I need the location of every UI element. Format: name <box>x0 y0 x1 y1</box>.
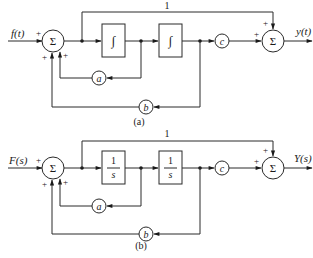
sign-sum1-feedback-b: + <box>42 52 47 62</box>
summing-junction-1: Σ <box>42 30 64 52</box>
output-label-y-t: y(t) <box>295 25 312 38</box>
summing-junction-2: Σ <box>262 30 284 52</box>
gain-a: a <box>92 199 106 213</box>
svg-text:1: 1 <box>111 155 116 166</box>
svg-text:s: s <box>112 169 116 180</box>
summing-junction-1: Σ <box>42 157 64 179</box>
caption-b: (b) <box>135 240 147 252</box>
svg-text:c: c <box>220 36 225 47</box>
sign-sum1-feedback-b: + <box>42 179 47 189</box>
svg-text:a: a <box>97 73 102 84</box>
sign-sum2-c: + <box>254 156 259 166</box>
gain-b: b <box>139 100 153 114</box>
sign-sum1-feedback-a: + <box>63 50 68 60</box>
svg-text:a: a <box>97 201 102 212</box>
svg-text:b: b <box>144 102 149 113</box>
input-label-F-s: F(s) <box>8 154 28 167</box>
summing-junction-2: Σ <box>262 157 284 179</box>
gain-b: b <box>139 227 153 241</box>
gain-c: c <box>215 161 229 175</box>
gain-a: a <box>92 71 106 85</box>
sign-sum1-input: + <box>36 155 41 165</box>
caption-a: (a) <box>133 116 144 128</box>
transfer-block-1-over-s-2: 1 s <box>159 151 182 184</box>
diagram-a-time-domain: f(t) + Σ + + ∫ ∫ c + <box>8 0 312 128</box>
feedforward-gain-label: 1 <box>165 128 170 139</box>
sigma-symbol: Σ <box>270 162 276 174</box>
input-label-f-t: f(t) <box>11 27 25 40</box>
integrator-block-1: ∫ <box>102 24 125 57</box>
svg-text:c: c <box>220 163 225 174</box>
integrator-block-2: ∫ <box>159 24 182 57</box>
block-diagrams: f(t) + Σ + + ∫ ∫ c + <box>0 0 313 258</box>
sigma-symbol: Σ <box>50 35 56 47</box>
svg-text:b: b <box>144 229 149 240</box>
sign-sum2-top: + <box>263 18 268 28</box>
svg-text:s: s <box>169 169 173 180</box>
sign-sum1-feedback-a: + <box>63 177 68 187</box>
transfer-block-1-over-s-1: 1 s <box>102 151 125 184</box>
feedforward-gain-label: 1 <box>165 0 170 11</box>
output-label-Y-s: Y(s) <box>294 152 312 165</box>
sigma-symbol: Σ <box>50 162 56 174</box>
sigma-symbol: Σ <box>270 35 276 47</box>
gain-c: c <box>215 34 229 48</box>
sign-sum2-top: + <box>263 145 268 155</box>
sign-sum2-c: + <box>254 29 259 39</box>
svg-text:1: 1 <box>168 155 173 166</box>
diagram-b-s-domain: F(s) + Σ + + 1 s 1 s c <box>8 128 312 252</box>
sign-sum1-input: + <box>36 28 41 38</box>
